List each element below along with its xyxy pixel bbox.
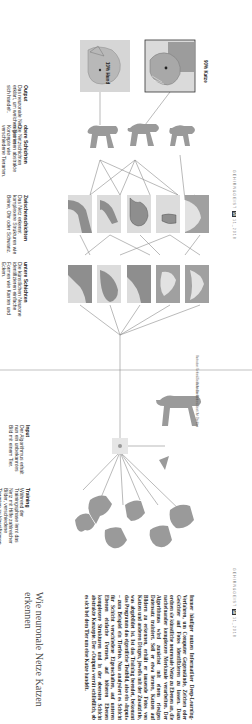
folio-left-issue: 11_2018 xyxy=(232,617,236,638)
training-caption-text: Während der Trainingsphase lernt das Net… xyxy=(0,488,25,546)
text-overlay: Output Das neuronale Netz erklärt, um we… xyxy=(0,0,252,724)
folio-left-magazine: GEHIRN&GEIST xyxy=(232,568,236,607)
folio-right-magazine: GEHIRN&GEIST xyxy=(232,170,236,209)
result-dog-label: 10% Hund xyxy=(105,62,110,84)
upper-caption-text: Die Netzschichten registrieren abstrakte… xyxy=(1,125,24,177)
input-caption: Input Der Algorithmus erhält nun ein unb… xyxy=(8,425,30,480)
middle-layers-caption: Zwischenschichten Das Netz erkennt kompl… xyxy=(6,195,28,255)
folio-right-page: 59 xyxy=(232,211,236,217)
article-text: Immer häufiger nutzen Informatiker Deep-… xyxy=(55,595,195,720)
result-cat-label: 90% Katze xyxy=(203,60,208,83)
middle-caption-text: Das Netz erkennt komplexere Strukturen w… xyxy=(6,195,23,254)
folio-page-right: GEHIRN&GEIST 59 11_2018 xyxy=(232,170,236,240)
folio-left-page: 58 xyxy=(232,609,236,615)
lower-layers-caption: untere Schichten Die künstlichen Neurone… xyxy=(0,262,28,322)
input-caption-text: Der Algorithmus erhält nun ein unbekannt… xyxy=(8,425,25,474)
training-caption: Training Während der Trainingsphase lern… xyxy=(0,488,30,548)
upper-layers-caption: obere Schichten Die Netzschichten regist… xyxy=(0,125,28,185)
article-heading: Wie neuronale Netze Katzen erkennen xyxy=(23,592,45,712)
lower-caption-text: Die künstlichen Neurone identifizieren e… xyxy=(1,262,24,316)
image-credit-left: Illustration: Gehirn&Geist / Art Direkti… xyxy=(195,382,198,437)
folio-right-issue: 11_2018 xyxy=(232,219,236,240)
folio-page-left: GEHIRN&GEIST 58 11_2018 xyxy=(232,568,236,638)
